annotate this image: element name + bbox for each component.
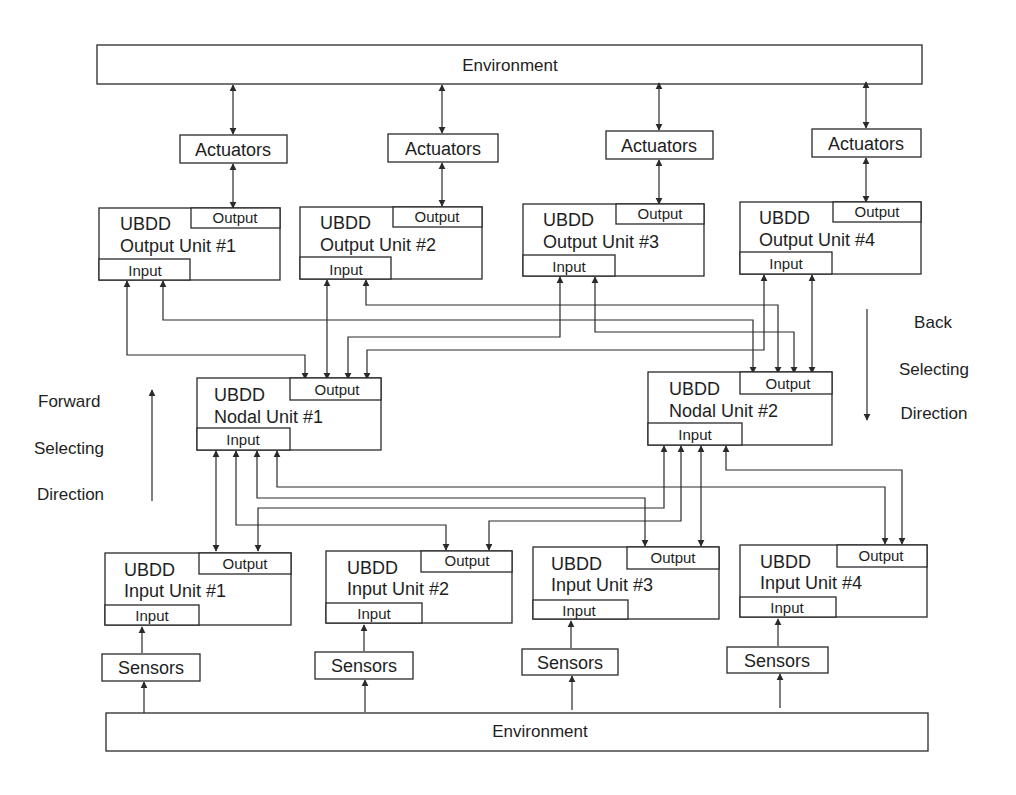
input-unit-1-name: Input Unit #1 (124, 581, 226, 601)
environment-bottom: Environment (106, 713, 928, 751)
sensors-3: Sensors (522, 649, 618, 675)
output-unit-3-name: Output Unit #3 (543, 232, 659, 252)
forward-selecting-direction: Forward Selecting Direction (34, 390, 152, 504)
output-unit-1: UBDD Output Output Unit #1 Input (99, 208, 280, 280)
output-unit-3: UBDD Output Output Unit #3 Input (523, 204, 704, 276)
back-direction-line-1: Back (914, 313, 952, 332)
output-unit-3-input-port: Input (552, 258, 586, 275)
nodal-unit-2: UBDD Output Nodal Unit #2 Input (648, 372, 832, 445)
input-unit-1-output-port: Output (222, 555, 268, 572)
nodal-unit-1-input-port: Input (226, 431, 260, 448)
environment-top-label: Environment (462, 56, 558, 75)
nodal-unit-1-name: Nodal Unit #1 (214, 407, 323, 427)
output-unit-4-title: UBDD (759, 208, 810, 228)
environment-top: Environment (97, 45, 922, 84)
nodal-unit-2-input-port: Input (678, 426, 712, 443)
nodal-unit-1-output-port: Output (314, 381, 360, 398)
actuators-4-label: Actuators (828, 134, 904, 154)
input-unit-4-title: UBDD (760, 552, 811, 572)
forward-direction-line-2: Selecting (34, 439, 104, 458)
sensors-1: Sensors (102, 654, 200, 681)
input-unit-1: UBDD Output Input Unit #1 Input (105, 553, 291, 625)
sensors-4-label: Sensors (744, 651, 810, 671)
nodal-unit-2-output-port: Output (765, 375, 811, 392)
sensor-links (142, 619, 780, 713)
output-unit-4-name: Output Unit #4 (759, 230, 875, 250)
actuators-4: Actuators (812, 129, 921, 157)
actuators-3-label: Actuators (621, 136, 697, 156)
input-unit-2-output-port: Output (444, 552, 490, 569)
sensors-2: Sensors (315, 652, 413, 679)
sensors-1-label: Sensors (118, 658, 184, 678)
input-unit-4: UBDD Output Input Unit #4 Input (740, 545, 927, 617)
nodal-unit-2-title: UBDD (669, 379, 720, 399)
output-unit-4: UBDD Output Output Unit #4 Input (740, 202, 921, 274)
input-unit-2: UBDD Output Input Unit #2 Input (326, 551, 512, 623)
input-unit-2-input-port: Input (357, 605, 391, 622)
sensors-3-label: Sensors (537, 653, 603, 673)
actuator-links (233, 82, 866, 208)
ubdd-architecture-diagram: Environment Actuators Actuators Actuator… (0, 0, 1016, 795)
output-unit-2-output-port: Output (414, 208, 460, 225)
input-unit-3-output-port: Output (650, 549, 696, 566)
output-unit-1-input-port: Input (128, 262, 162, 279)
input-unit-3-input-port: Input (562, 602, 596, 619)
sensors-4: Sensors (727, 647, 828, 673)
output-unit-2-title: UBDD (320, 213, 371, 233)
output-unit-1-name: Output Unit #1 (120, 236, 236, 256)
input-to-nodal-links (216, 446, 902, 551)
output-unit-2-name: Output Unit #2 (320, 235, 436, 255)
input-unit-4-input-port: Input (770, 599, 804, 616)
nodal-unit-1-title: UBDD (214, 385, 265, 405)
actuators-3: Actuators (606, 131, 713, 159)
nodal-unit-2-name: Nodal Unit #2 (669, 401, 778, 421)
back-direction-line-3: Direction (900, 404, 967, 423)
input-unit-2-title: UBDD (347, 558, 398, 578)
sensors-2-label: Sensors (331, 656, 397, 676)
output-unit-3-output-port: Output (637, 205, 683, 222)
output-unit-1-output-port: Output (212, 209, 258, 226)
back-direction-line-2: Selecting (899, 360, 969, 379)
input-unit-4-name: Input Unit #4 (760, 573, 862, 593)
actuators-1-label: Actuators (195, 140, 271, 160)
output-unit-1-title: UBDD (120, 214, 171, 234)
output-unit-2-input-port: Input (329, 261, 363, 278)
actuators-2: Actuators (388, 134, 498, 162)
input-unit-4-output-port: Output (858, 547, 904, 564)
nodal-to-output-links (127, 275, 812, 379)
back-selecting-direction: Back Selecting Direction (867, 309, 969, 423)
output-unit-4-output-port: Output (854, 203, 900, 220)
environment-bottom-label: Environment (492, 722, 588, 741)
input-unit-1-input-port: Input (135, 607, 169, 624)
output-unit-3-title: UBDD (543, 210, 594, 230)
output-unit-2: UBDD Output Output Unit #2 Input (300, 207, 482, 279)
actuators-1: Actuators (180, 135, 287, 163)
input-unit-2-name: Input Unit #2 (347, 579, 449, 599)
input-unit-1-title: UBDD (124, 560, 175, 580)
nodal-unit-1: UBDD Output Nodal Unit #1 Input (197, 378, 381, 450)
forward-direction-line-3: Direction (37, 485, 104, 504)
input-unit-3-name: Input Unit #3 (551, 575, 653, 595)
output-unit-4-input-port: Input (769, 255, 803, 272)
forward-direction-line-1: Forward (38, 392, 100, 411)
input-unit-3-title: UBDD (551, 554, 602, 574)
actuators-2-label: Actuators (405, 139, 481, 159)
input-unit-3: UBDD Output Input Unit #3 Input (533, 547, 719, 619)
